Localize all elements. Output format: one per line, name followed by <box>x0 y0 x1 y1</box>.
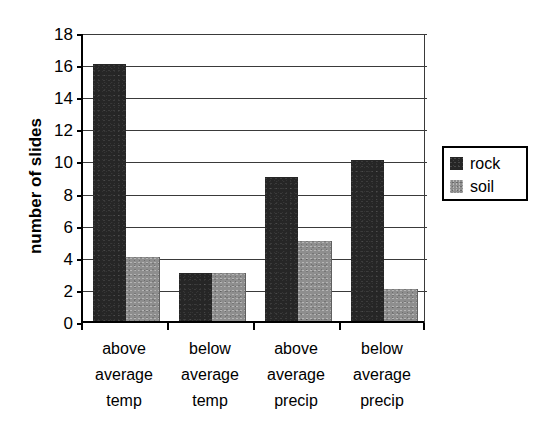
x-category-label-line: temp <box>81 388 167 414</box>
x-category-label-line: below <box>339 336 425 362</box>
y-tick-mark <box>77 227 83 229</box>
x-tick-mark <box>167 323 169 330</box>
bar-soil-0 <box>126 257 160 321</box>
y-tick-label: 4 <box>33 251 73 268</box>
y-tick-label: 6 <box>33 219 73 236</box>
x-category-label-line: above <box>253 336 339 362</box>
y-tick-label: 8 <box>33 187 73 204</box>
x-tick-mark <box>253 323 255 330</box>
x-category-label-line: below <box>167 336 253 362</box>
x-category-label-line: precip <box>339 388 425 414</box>
rock-swatch <box>450 157 463 170</box>
legend-label: rock <box>470 156 500 172</box>
bar-rock-0 <box>93 64 126 321</box>
y-tick-label: 16 <box>33 58 73 75</box>
y-tick-mark <box>77 259 83 261</box>
bar-rock-1 <box>179 273 212 321</box>
x-category-label-line: precip <box>253 388 339 414</box>
y-tick-mark <box>77 98 83 100</box>
y-tick-label: 14 <box>33 90 73 107</box>
x-category-label-line: above <box>81 336 167 362</box>
bar-rock-3 <box>351 160 384 321</box>
y-tick-mark <box>77 291 83 293</box>
bar-chart: number of slides 181614121086420 aboveav… <box>0 0 538 427</box>
y-axis-tick-labels: 181614121086420 <box>29 34 73 323</box>
gridline <box>83 66 427 67</box>
bar-soil-3 <box>384 289 418 321</box>
x-axis-category-labels: aboveaveragetempbelowaveragetempaboveave… <box>81 336 425 422</box>
y-tick-label: 10 <box>33 154 73 171</box>
x-category-label-line: average <box>167 362 253 388</box>
bar-rock-2 <box>265 177 298 322</box>
soil-swatch <box>450 180 463 193</box>
x-category-label-line: average <box>339 362 425 388</box>
x-tick-mark <box>339 323 341 330</box>
x-category-label: belowaverageprecip <box>339 336 425 414</box>
x-category-label-line: average <box>81 362 167 388</box>
gridline <box>83 98 427 99</box>
y-tick-label: 2 <box>33 283 73 300</box>
y-tick-mark <box>77 130 83 132</box>
bar-soil-1 <box>212 273 246 321</box>
legend-item-soil[interactable]: soil <box>450 175 526 198</box>
x-category-label: aboveaveragetemp <box>81 336 167 414</box>
y-tick-mark <box>77 195 83 197</box>
plot-right-edge <box>424 34 425 323</box>
legend-label: soil <box>470 179 494 195</box>
x-axis-tick-marks <box>81 323 425 333</box>
y-tick-label: 0 <box>33 315 73 332</box>
chart-legend: rocksoil <box>442 146 528 201</box>
x-category-label-line: temp <box>167 388 253 414</box>
y-tick-mark <box>77 34 83 36</box>
gridline <box>83 34 427 35</box>
y-tick-label: 18 <box>33 26 73 43</box>
x-tick-mark <box>423 323 425 330</box>
gridline <box>83 130 427 131</box>
x-tick-mark <box>81 323 83 330</box>
x-category-label-line: average <box>253 362 339 388</box>
legend-item-rock[interactable]: rock <box>450 152 526 175</box>
bar-soil-2 <box>298 241 332 321</box>
x-category-label: belowaveragetemp <box>167 336 253 414</box>
x-category-label: aboveaverageprecip <box>253 336 339 414</box>
y-tick-label: 12 <box>33 122 73 139</box>
y-tick-mark <box>77 162 83 164</box>
plot-area <box>81 34 425 323</box>
y-tick-mark <box>77 66 83 68</box>
